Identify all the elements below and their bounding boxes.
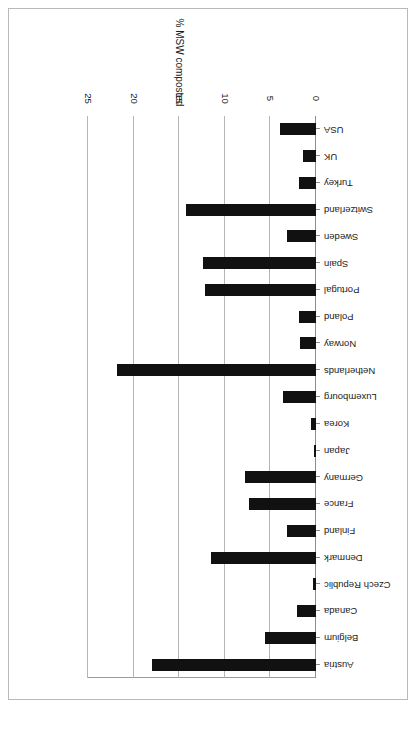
category-tick	[316, 155, 320, 156]
bar-turkey	[299, 177, 316, 189]
category-tick	[316, 128, 320, 129]
bar-row: Japan	[88, 437, 316, 464]
bar-row: Korea	[88, 410, 316, 437]
bar-row: Luxembourg	[88, 384, 316, 411]
category-label-norway: Norway	[324, 330, 356, 357]
bar-row: UK	[88, 143, 316, 170]
plot-area: AustriaBelgiumCanadaCzech RepublicDenmar…	[88, 116, 316, 678]
category-label-finland: Finland	[324, 517, 355, 544]
category-label-spain: Spain	[324, 250, 348, 277]
bar-norway	[301, 337, 317, 349]
category-tick	[316, 476, 320, 477]
category-label-poland: Poland	[324, 303, 354, 330]
category-label-switzerland: Switzerland	[324, 196, 373, 223]
category-label-korea: Korea	[324, 410, 349, 437]
category-tick	[316, 342, 320, 343]
category-label-czech-republic: Czech Republic	[324, 571, 391, 598]
bar-row: Switzerland	[88, 196, 316, 223]
bar-row: Turkey	[88, 170, 316, 197]
category-label-portugal: Portugal	[324, 277, 359, 304]
category-tick	[316, 396, 320, 397]
category-label-netherlands: Netherlands	[324, 357, 375, 384]
bar-france	[249, 498, 316, 510]
bar-luxembourg	[283, 391, 316, 403]
bar-row: France	[88, 491, 316, 518]
bar-row: Sweden	[88, 223, 316, 250]
bar-row: Austria	[88, 651, 316, 678]
category-tick	[316, 557, 320, 558]
category-label-france: France	[324, 491, 354, 518]
category-label-usa: USA	[324, 116, 344, 143]
category-tick	[316, 289, 320, 290]
category-label-japan: Japan	[324, 437, 350, 464]
category-tick	[316, 235, 320, 236]
category-tick	[316, 503, 320, 504]
bar-row: Czech Republic	[88, 571, 316, 598]
category-tick	[316, 316, 320, 317]
bar-belgium	[265, 632, 316, 644]
x-tick-label-5: 5	[265, 89, 276, 109]
category-label-austria: Austria	[324, 651, 354, 678]
bar-austria	[152, 659, 316, 671]
scanned-page: AustriaBelgiumCanadaCzech RepublicDenmar…	[0, 0, 415, 730]
bar-finland	[287, 525, 316, 537]
bar-japan	[314, 445, 316, 457]
bar-row: USA	[88, 116, 316, 143]
category-label-luxembourg: Luxembourg	[324, 384, 377, 411]
category-label-germany: Germany	[324, 464, 363, 491]
bar-denmark	[211, 552, 316, 564]
x-tick-label-0: 0	[311, 89, 322, 109]
category-tick	[316, 450, 320, 451]
category-tick	[316, 610, 320, 611]
category-tick	[316, 423, 320, 424]
category-label-turkey: Turkey	[324, 170, 353, 197]
category-tick	[316, 637, 320, 638]
bar-uk	[303, 150, 316, 162]
bar-sweden	[287, 230, 316, 242]
bar-row: Canada	[88, 598, 316, 625]
bar-spain	[203, 257, 316, 269]
bar-czech-republic	[313, 578, 316, 590]
bar-chart: AustriaBelgiumCanadaCzech RepublicDenmar…	[20, 78, 316, 678]
bar-row: Norway	[88, 330, 316, 357]
category-label-uk: UK	[324, 143, 337, 170]
x-tick-label-25: 25	[83, 89, 94, 109]
category-tick	[316, 262, 320, 263]
category-tick	[316, 583, 320, 584]
bar-canada	[297, 605, 316, 617]
bar-poland	[299, 311, 316, 323]
figure-rotated-180: AustriaBelgiumCanadaCzech RepublicDenmar…	[8, 8, 408, 700]
category-label-canada: Canada	[324, 598, 357, 625]
bar-switzerland	[187, 204, 317, 216]
bar-row: Belgium	[88, 625, 316, 652]
bar-germany	[245, 471, 316, 483]
category-label-belgium: Belgium	[324, 625, 358, 652]
bar-netherlands	[117, 364, 316, 376]
bar-row: Poland	[88, 303, 316, 330]
category-tick	[316, 182, 320, 183]
bar-row: Germany	[88, 464, 316, 491]
category-label-sweden: Sweden	[324, 223, 358, 250]
x-tick-label-20: 20	[128, 89, 139, 109]
bar-row: Denmark	[88, 544, 316, 571]
category-tick	[316, 369, 320, 370]
bar-portugal	[205, 284, 316, 296]
bar-row: Spain	[88, 250, 316, 277]
bar-usa	[280, 123, 316, 135]
category-label-denmark: Denmark	[324, 544, 363, 571]
x-tick-label-10: 10	[219, 89, 230, 109]
category-tick	[316, 664, 320, 665]
category-tick	[316, 209, 320, 210]
bar-row: Netherlands	[88, 357, 316, 384]
bar-korea	[311, 418, 316, 430]
bar-row: Portugal	[88, 277, 316, 304]
bar-row: Finland	[88, 517, 316, 544]
category-tick	[316, 530, 320, 531]
axis-title: % MSW composted	[174, 3, 185, 123]
